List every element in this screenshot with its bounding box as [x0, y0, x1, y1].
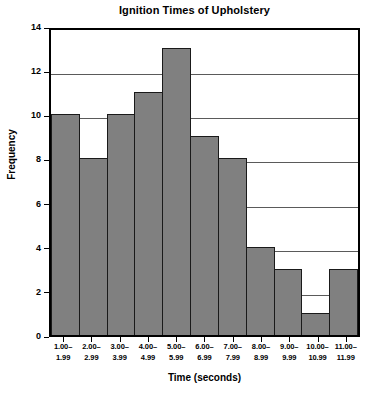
y-axis-ticks: 02468101214: [0, 0, 49, 403]
x-tick-label-upper: 4.99: [134, 352, 162, 363]
plot-area: [49, 28, 360, 337]
x-tick-label-lower: 1.00–: [49, 341, 77, 352]
x-tick-label-lower: 10.00–: [303, 341, 331, 352]
x-tick-label-upper: 2.99: [77, 352, 105, 363]
bar: [218, 158, 247, 335]
x-tick-label: 9.00–9.99: [275, 341, 303, 369]
x-tick-label-lower: 5.00–: [162, 341, 190, 352]
x-tick-label: 10.00–10.99: [303, 341, 331, 369]
x-axis-title: Time (seconds): [49, 372, 360, 383]
x-tick-label-upper: 1.99: [49, 352, 77, 363]
x-tick-label-lower: 7.00–: [219, 341, 247, 352]
bar: [162, 48, 191, 335]
bar: [107, 114, 136, 335]
x-tick-label: 7.00–7.99: [219, 341, 247, 369]
x-tick-label: 2.00–2.99: [77, 341, 105, 369]
x-tick-label-upper: 3.99: [106, 352, 134, 363]
x-tick-label-lower: 8.00–: [247, 341, 275, 352]
y-tick-label: 12: [31, 66, 41, 76]
bar: [79, 158, 108, 335]
chart-title: Ignition Times of Upholstery: [0, 4, 389, 16]
bar: [190, 136, 219, 335]
x-tick-label: 3.00–3.99: [106, 341, 134, 369]
x-tick-label-upper: 7.99: [219, 352, 247, 363]
x-axis-tick-labels: 1.00–1.992.00–2.993.00–3.994.00–4.995.00…: [49, 341, 360, 369]
y-tick-label: 0: [36, 331, 41, 341]
y-tick-label: 4: [36, 243, 41, 253]
x-tick-label-upper: 9.99: [275, 352, 303, 363]
x-tick-label-upper: 8.99: [247, 352, 275, 363]
bar: [274, 269, 303, 335]
bar: [246, 247, 275, 335]
x-tick-label-upper: 10.99: [303, 352, 331, 363]
bar: [329, 269, 358, 335]
y-tick-label: 6: [36, 199, 41, 209]
histogram-chart: Ignition Times of Upholstery Frequency 0…: [0, 0, 389, 403]
x-tick-label: 11.00–11.99: [332, 341, 360, 369]
x-tick-label-lower: 9.00–: [275, 341, 303, 352]
x-tick-label-lower: 3.00–: [106, 341, 134, 352]
bar: [51, 114, 80, 335]
bar: [301, 313, 330, 335]
x-tick-label-lower: 11.00–: [332, 341, 360, 352]
x-tick-label-upper: 11.99: [332, 352, 360, 363]
x-tick-label-upper: 5.99: [162, 352, 190, 363]
y-tick-label: 2: [36, 287, 41, 297]
x-tick-label-upper: 6.99: [190, 352, 218, 363]
y-tick-label: 10: [31, 110, 41, 120]
x-tick-label: 1.00–1.99: [49, 341, 77, 369]
x-tick-label: 4.00–4.99: [134, 341, 162, 369]
y-tick-label: 8: [36, 154, 41, 164]
x-tick-label-lower: 6.00–: [190, 341, 218, 352]
bars-container: [51, 30, 358, 335]
x-tick-label: 5.00–5.99: [162, 341, 190, 369]
bar: [134, 92, 163, 335]
x-tick-label-lower: 4.00–: [134, 341, 162, 352]
y-tick-label: 14: [31, 22, 41, 32]
x-tick-label: 8.00–8.99: [247, 341, 275, 369]
x-tick-label: 6.00–6.99: [190, 341, 218, 369]
x-tick-label-lower: 2.00–: [77, 341, 105, 352]
